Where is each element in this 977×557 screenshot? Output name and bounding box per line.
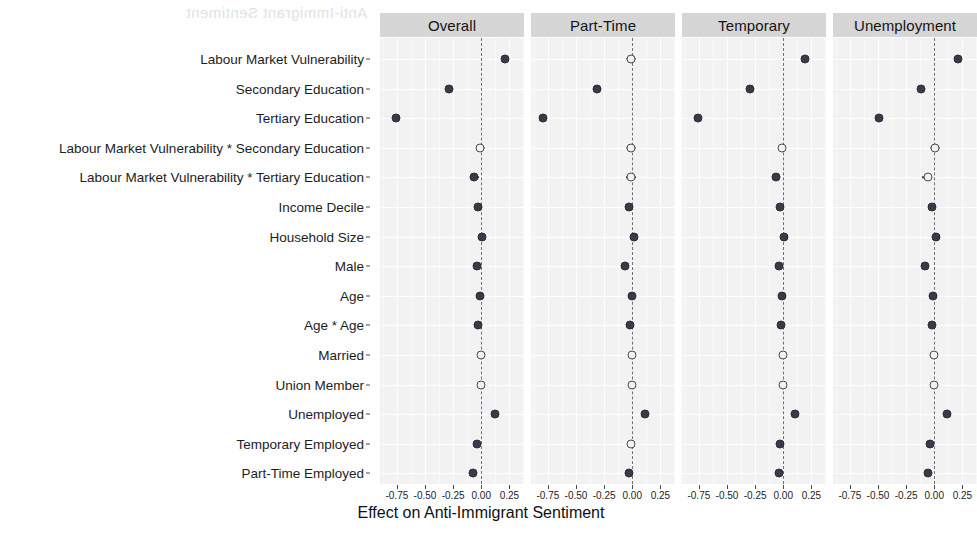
coefficient-point[interactable]: [927, 203, 936, 212]
facet-panel-overall: Overall: [380, 13, 524, 484]
x-axis-tick-label: 0.00: [472, 490, 491, 501]
x-axis-tick-mark: [850, 485, 851, 489]
gridline-vertical: [850, 38, 851, 484]
y-axis-label: Age * Age: [304, 318, 364, 333]
y-axis-tick: [366, 236, 370, 237]
x-axis-tick-label: -0.75: [687, 490, 710, 501]
coefficient-point[interactable]: [931, 232, 940, 241]
coefficient-point[interactable]: [625, 469, 634, 478]
coefficient-point[interactable]: [473, 203, 482, 212]
gridline-vertical: [509, 38, 510, 484]
coefficient-point[interactable]: [627, 143, 636, 152]
facet-strip-label: Overall: [428, 17, 476, 34]
coefficient-point[interactable]: [626, 55, 635, 64]
coefficient-point[interactable]: [929, 351, 938, 360]
gridline-horizontal: [531, 207, 675, 208]
coefficient-point[interactable]: [629, 232, 638, 241]
gridline-horizontal: [531, 177, 675, 178]
coefficient-point[interactable]: [916, 84, 925, 93]
coefficient-point[interactable]: [791, 410, 800, 419]
coefficient-point[interactable]: [392, 114, 401, 123]
coefficient-point[interactable]: [776, 321, 785, 330]
coefficient-point[interactable]: [474, 321, 483, 330]
gridline-horizontal: [380, 385, 524, 386]
coefficient-point[interactable]: [627, 291, 636, 300]
zero-reference-line: [934, 38, 935, 484]
coefficient-point[interactable]: [620, 262, 629, 271]
gridline-vertical-minor: [825, 38, 826, 484]
coefficient-point[interactable]: [476, 351, 485, 360]
coefficient-point[interactable]: [628, 351, 637, 360]
coefficient-point[interactable]: [625, 203, 634, 212]
coefficient-point[interactable]: [920, 262, 929, 271]
x-axis-tick-mark: [755, 485, 756, 489]
coefficient-point[interactable]: [476, 143, 485, 152]
coefficient-point[interactable]: [625, 321, 634, 330]
coefficient-point[interactable]: [475, 291, 484, 300]
coefficient-point[interactable]: [926, 439, 935, 448]
coefficient-point[interactable]: [778, 143, 787, 152]
gridline-vertical: [453, 38, 454, 484]
coefficient-point[interactable]: [777, 291, 786, 300]
coefficient-point[interactable]: [942, 410, 951, 419]
coefficient-point[interactable]: [775, 469, 784, 478]
coefficient-point[interactable]: [780, 232, 789, 241]
coefficient-point[interactable]: [476, 380, 485, 389]
coefficient-point[interactable]: [469, 173, 478, 182]
gridline-horizontal: [531, 444, 675, 445]
gridline-horizontal: [380, 414, 524, 415]
coefficient-point[interactable]: [776, 203, 785, 212]
coefficient-point[interactable]: [778, 380, 787, 389]
coefficient-point[interactable]: [929, 380, 938, 389]
gridline-vertical-minor: [562, 38, 563, 484]
gridline-vertical-minor: [618, 38, 619, 484]
coefficient-point[interactable]: [929, 291, 938, 300]
coefficient-point[interactable]: [468, 469, 477, 478]
coefficient-point[interactable]: [775, 262, 784, 271]
gridline-vertical: [962, 38, 963, 484]
coefficient-point[interactable]: [800, 55, 809, 64]
x-axis-tick-mark: [548, 485, 549, 489]
coefficient-point[interactable]: [746, 84, 755, 93]
facet-plot-area: [380, 38, 524, 484]
facet-strip: Unemployment: [833, 13, 977, 37]
x-axis-tick-mark: [509, 485, 510, 489]
coefficient-point[interactable]: [444, 84, 453, 93]
coefficient-point[interactable]: [627, 439, 636, 448]
coefficient-point[interactable]: [593, 84, 602, 93]
coefficient-point[interactable]: [928, 321, 937, 330]
coefficient-point[interactable]: [874, 114, 883, 123]
coefficient-point[interactable]: [472, 439, 481, 448]
coefficient-point[interactable]: [627, 380, 636, 389]
y-axis-label: Temporary Employed: [236, 436, 364, 451]
coefficient-point[interactable]: [930, 143, 939, 152]
coefficient-point[interactable]: [626, 173, 635, 182]
coefficient-point[interactable]: [923, 173, 932, 182]
x-axis-tick-label: -0.25: [442, 490, 465, 501]
coefficient-point[interactable]: [924, 469, 933, 478]
coefficient-point[interactable]: [694, 114, 703, 123]
y-axis-tick: [366, 355, 370, 356]
x-axis-tick-mark: [934, 485, 935, 489]
y-axis-tick: [366, 266, 370, 267]
gridline-horizontal: [380, 118, 524, 119]
y-axis-label: Labour Market Vulnerability: [200, 52, 364, 67]
coefficient-point[interactable]: [539, 114, 548, 123]
coefficient-point[interactable]: [641, 410, 650, 419]
coefficient-point[interactable]: [954, 55, 963, 64]
gridline-horizontal: [682, 237, 826, 238]
gridline-vertical: [397, 38, 398, 484]
gridline-vertical: [660, 38, 661, 484]
coefficient-point[interactable]: [490, 410, 499, 419]
x-axis-tick-mark: [811, 485, 812, 489]
coefficient-point[interactable]: [772, 173, 781, 182]
gridline-horizontal: [833, 414, 977, 415]
coefficient-point[interactable]: [778, 351, 787, 360]
x-axis-title: Effect on Anti-Immigrant Sentiment: [0, 504, 962, 522]
coefficient-point[interactable]: [473, 262, 482, 271]
coefficient-point[interactable]: [478, 232, 487, 241]
y-axis-label: Income Decile: [278, 200, 364, 215]
coefficient-point[interactable]: [501, 55, 510, 64]
coefficient-point[interactable]: [775, 439, 784, 448]
